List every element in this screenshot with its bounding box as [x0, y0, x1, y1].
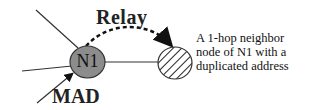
neighbor-description: A 1-hop neighbor node of N1 with a dupli… — [196, 31, 289, 73]
relay-arc — [86, 27, 170, 46]
edge-top-left — [36, 10, 78, 48]
description-line: duplicated address — [196, 59, 289, 73]
description-line: node of N1 with a — [196, 45, 289, 59]
mad-label: MAD — [52, 85, 100, 108]
edge-left — [22, 66, 72, 71]
description-line: A 1-hop neighbor — [196, 31, 289, 45]
n1-label: N1 — [70, 51, 105, 72]
relay-label: Relay — [96, 6, 147, 29]
node-neighbor-hatched — [158, 47, 192, 79]
